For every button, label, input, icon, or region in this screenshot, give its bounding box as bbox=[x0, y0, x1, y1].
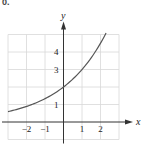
tick-labels: −2−112134 bbox=[22, 47, 103, 134]
y-axis-label: y bbox=[60, 10, 66, 21]
x-axis-arrow bbox=[125, 120, 133, 125]
exponential-chart: 0. xy −2−112134 bbox=[0, 0, 145, 146]
y-tick-label: 1 bbox=[54, 100, 59, 110]
x-tick-label: −2 bbox=[22, 124, 32, 134]
x-tick-label: 2 bbox=[98, 124, 103, 134]
x-tick-label: 1 bbox=[80, 124, 85, 134]
x-tick-label: −1 bbox=[40, 124, 50, 134]
cropped-label: 0. bbox=[2, 0, 10, 7]
y-tick-label: 3 bbox=[54, 65, 59, 75]
x-axis-label: x bbox=[135, 116, 141, 127]
y-axis-arrow bbox=[61, 22, 66, 30]
y-tick-label: 4 bbox=[54, 47, 59, 57]
